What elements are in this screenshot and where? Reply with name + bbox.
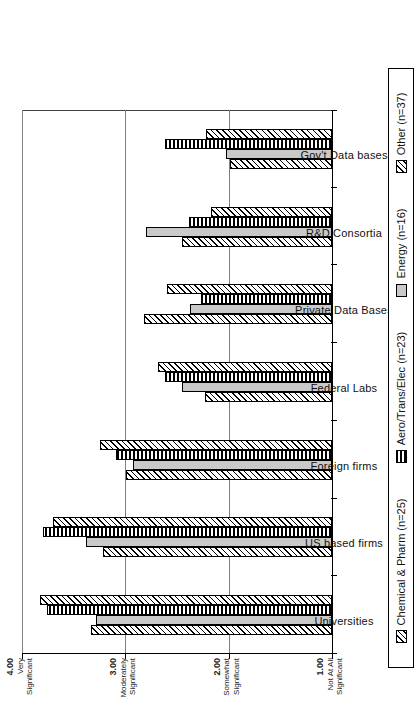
legend-label: Other (n=37) xyxy=(395,93,407,156)
tick-desc-2: Significant xyxy=(128,658,138,706)
tick-desc-2: Significant xyxy=(25,658,35,706)
tick-value: 1.00 xyxy=(316,658,326,706)
group-separator xyxy=(331,187,337,188)
bar xyxy=(91,625,332,635)
legend-label: Energy (n=16) xyxy=(395,209,407,279)
category-label: R&D Consortia xyxy=(306,227,382,239)
legend-swatch xyxy=(396,284,407,297)
bar xyxy=(211,207,332,217)
bar xyxy=(158,362,332,372)
tick-desc-2: Significant xyxy=(232,658,242,706)
legend-item: Energy (n=16) xyxy=(395,209,407,297)
bar-group xyxy=(22,576,332,654)
bar xyxy=(86,537,332,547)
tick-label-4.00: 4.00VerySignificant xyxy=(6,658,35,706)
legend-item: Chemical & Pharm (n=25) xyxy=(395,499,407,644)
category-label: Private Data Bases xyxy=(295,304,393,316)
bar-group xyxy=(22,499,332,577)
legend-swatch xyxy=(396,160,407,173)
bar xyxy=(40,595,332,605)
bar xyxy=(189,217,332,227)
bar-group xyxy=(22,110,332,188)
group-separator xyxy=(331,110,337,111)
bar xyxy=(165,372,332,382)
bar xyxy=(103,547,332,557)
bar xyxy=(182,382,332,392)
group-separator xyxy=(331,420,337,421)
bar xyxy=(206,129,332,139)
tick-label-2.00: 2.00SomewhatSignificant xyxy=(213,658,242,706)
tick-desc-1: Somewhat xyxy=(222,658,232,706)
tick-value: 4.00 xyxy=(6,658,16,706)
legend-item: Other (n=37) xyxy=(395,93,407,174)
bar xyxy=(201,294,332,304)
bar-groups xyxy=(22,110,332,654)
category-label: Foreign firms xyxy=(311,460,378,472)
group-separator xyxy=(331,342,337,343)
category-label: Federal Labs xyxy=(311,382,378,394)
bar-group xyxy=(22,188,332,266)
bar xyxy=(146,227,332,237)
bar-group xyxy=(22,265,332,343)
plot-area: 1.00Not At AllSignificant2.00SomewhatSig… xyxy=(22,110,332,654)
group-separator xyxy=(331,653,337,654)
tick-desc-1: Not At All xyxy=(326,658,336,706)
legend-item: Aero/Trans/Elec (n=23) xyxy=(395,332,407,464)
group-separator xyxy=(331,498,337,499)
bar xyxy=(47,605,332,615)
bar xyxy=(96,615,332,625)
tick-desc-1: Moderately xyxy=(119,658,129,706)
bar-group xyxy=(22,343,332,421)
category-label: US based firms xyxy=(305,537,383,549)
chart-legend: Chemical & Pharm (n=25)Aero/Trans/Elec (… xyxy=(388,68,414,668)
bar-group xyxy=(22,421,332,499)
tick-desc-2: Significant xyxy=(335,658,345,706)
category-label: Gov't Data bases xyxy=(300,149,387,161)
bar xyxy=(116,450,332,460)
bar xyxy=(133,460,332,470)
tick-value: 3.00 xyxy=(109,658,119,706)
group-separator xyxy=(331,264,337,265)
bar xyxy=(43,527,332,537)
bar xyxy=(53,517,332,527)
bar xyxy=(100,440,333,450)
tick-label-1.00: 1.00Not At AllSignificant xyxy=(316,658,345,706)
chart-figure: 1.00Not At AllSignificant2.00SomewhatSig… xyxy=(0,0,420,710)
tick-label-3.00: 3.00ModeratelySignificant xyxy=(109,658,138,706)
chart-rotated-canvas: 1.00Not At AllSignificant2.00SomewhatSig… xyxy=(0,0,420,710)
tick-value: 2.00 xyxy=(213,658,223,706)
bar xyxy=(165,139,332,149)
legend-label: Chemical & Pharm (n=25) xyxy=(395,499,407,626)
category-label: Universities xyxy=(314,615,373,627)
bar xyxy=(126,470,332,480)
legend-label: Aero/Trans/Elec (n=23) xyxy=(395,332,407,446)
tick-desc-1: Very xyxy=(16,658,26,706)
legend-swatch xyxy=(396,450,407,463)
legend-swatch xyxy=(396,630,407,643)
group-separator xyxy=(331,575,337,576)
bar xyxy=(167,284,332,294)
